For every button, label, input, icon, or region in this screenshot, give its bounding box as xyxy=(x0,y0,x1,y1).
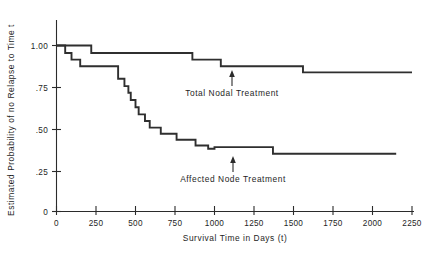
affected-node-arrow-head xyxy=(230,156,236,163)
annotation-total-nodal-treatment: Total Nodal Treatment xyxy=(185,70,279,98)
x-ticks-group xyxy=(57,206,413,215)
x-tick-label-500: 500 xyxy=(128,219,143,228)
x-tick-label-1250: 1250 xyxy=(244,219,264,228)
x-tick-labels: 0 250 500 750 1000 1250 1500 1750 2000 2… xyxy=(54,219,422,228)
x-tick-label-2000: 2000 xyxy=(363,219,383,228)
x-tick-label-250: 250 xyxy=(89,219,104,228)
x-tick-label-1500: 1500 xyxy=(284,219,304,228)
y-tick-labels: 1.00 .75 .50 .25 0 xyxy=(31,42,48,217)
y-tick-label-0.75: .75 xyxy=(36,84,48,93)
y-tick-label-0: 0 xyxy=(43,208,48,217)
y-tick-label-0.50: .50 xyxy=(36,126,48,135)
x-axis-title: Survival Time in Days (t) xyxy=(183,233,288,243)
annotation-affected-node-treatment: Affected Node Treatment xyxy=(180,156,286,184)
y-tick-label-1.00: 1.00 xyxy=(31,42,48,51)
series-group xyxy=(57,46,413,154)
x-tick-label-2250: 2250 xyxy=(402,219,422,228)
x-tick-label-0: 0 xyxy=(54,219,59,228)
total-nodal-treatment-label: Total Nodal Treatment xyxy=(185,88,279,98)
x-tick-label-750: 750 xyxy=(168,219,183,228)
affected-node-treatment-label: Affected Node Treatment xyxy=(180,174,286,184)
total-nodal-arrow-head xyxy=(229,70,235,77)
y-axis-title: Estimated Probability of no Relapse to T… xyxy=(6,24,16,216)
y-tick-label-0.25: .25 xyxy=(36,168,48,177)
x-tick-label-1750: 1750 xyxy=(323,219,343,228)
x-tick-label-1000: 1000 xyxy=(205,219,225,228)
survival-plot: 1.00 .75 .50 .25 0 0 250 500 750 1000 xyxy=(0,0,428,256)
kaplan-meier-figure: 1.00 .75 .50 .25 0 0 250 500 750 1000 xyxy=(0,0,428,256)
curve-affected-node-treatment xyxy=(57,46,397,154)
curve-total-nodal-treatment xyxy=(57,46,413,73)
